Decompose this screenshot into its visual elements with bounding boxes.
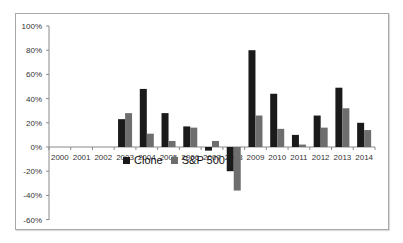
- bar-s-p-500-2010: [277, 129, 284, 147]
- x-tick-label: 2000: [51, 153, 69, 162]
- y-tick-label: 80%: [26, 46, 42, 55]
- x-tick-label: 2013: [334, 153, 352, 162]
- bar-s-p-500-2012: [321, 128, 328, 147]
- bar-s-p-500-2005: [169, 141, 176, 147]
- bar-s-p-500-2003: [125, 113, 132, 147]
- y-tick-label: 100%: [22, 22, 42, 31]
- bar-s-p-500-2006: [190, 128, 197, 147]
- bar-clone-2004: [140, 89, 147, 147]
- bar-clone-2007: [205, 147, 212, 151]
- x-tick-label: 2010: [268, 153, 286, 162]
- bar-s-p-500-2004: [147, 134, 154, 147]
- y-tick-label: -40%: [23, 191, 42, 200]
- chart-legend: Clone S&P 500: [123, 154, 225, 166]
- bar-s-p-500-2009: [255, 116, 262, 147]
- x-tick-label: 2002: [94, 153, 112, 162]
- bar-clone-2013: [335, 88, 342, 147]
- legend-swatch-clone: [123, 157, 130, 164]
- bar-clone-2014: [357, 123, 364, 147]
- bar-clone-2011: [292, 135, 299, 147]
- bar-s-p-500-2014: [364, 130, 371, 147]
- bar-clone-2005: [162, 113, 169, 147]
- bar-clone-2006: [183, 126, 190, 147]
- bar-chart: 100%80%60%40%20%0%-20%-40%-60%2000200120…: [0, 0, 403, 243]
- x-tick-label: 2001: [73, 153, 91, 162]
- y-tick-label: 0%: [30, 143, 42, 152]
- bar-clone-2012: [314, 116, 321, 147]
- x-tick-label: 2011: [290, 153, 308, 162]
- y-tick-label: 60%: [26, 70, 42, 79]
- x-tick-label: 2014: [355, 153, 373, 162]
- y-tick-label: -60%: [23, 216, 42, 225]
- legend-label-sp500: S&P 500: [182, 154, 225, 166]
- bar-clone-2003: [118, 119, 125, 147]
- bar-clone-2010: [270, 94, 277, 147]
- bar-clone-2008: [227, 147, 234, 171]
- legend-swatch-sp500: [171, 157, 178, 164]
- y-tick-label: 20%: [26, 119, 42, 128]
- bar-s-p-500-2013: [342, 108, 349, 147]
- y-tick-label: -20%: [23, 167, 42, 176]
- bar-s-p-500-2008: [234, 147, 241, 191]
- bar-s-p-500-2011: [299, 145, 306, 147]
- bar-clone-2009: [248, 50, 255, 147]
- legend-label-clone: Clone: [134, 154, 163, 166]
- x-tick-label: 2009: [247, 153, 265, 162]
- bar-s-p-500-2007: [212, 141, 219, 147]
- y-tick-label: 40%: [26, 95, 42, 104]
- x-tick-label: 2012: [312, 153, 330, 162]
